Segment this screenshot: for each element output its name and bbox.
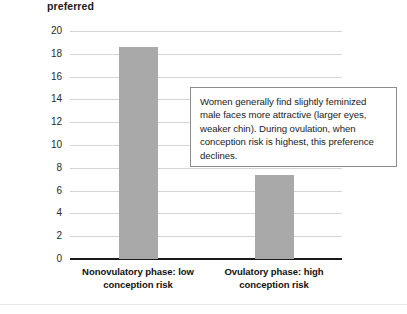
gridline: [70, 236, 342, 237]
bottom-divider: [0, 304, 407, 305]
x-axis-line: [70, 258, 342, 260]
y-axis-tick-label: 2: [40, 231, 62, 241]
gridline: [70, 168, 342, 169]
y-axis-tick-label: 6: [40, 186, 62, 196]
gridline: [70, 213, 342, 214]
y-axis-tick-label: 0: [40, 254, 62, 264]
y-axis-tick-label: 8: [40, 163, 62, 173]
gridline: [70, 191, 342, 192]
bar-chart-figure: preferred 20181614121086420 Nonovulatory…: [0, 0, 407, 314]
gridline: [70, 31, 342, 32]
x-axis-category-label-line: Nonovulatory phase: low: [63, 265, 213, 278]
y-axis-tick-label: 20: [40, 26, 62, 36]
x-axis-category-label: Nonovulatory phase: lowconception risk: [63, 265, 213, 291]
x-axis-category-label: Ovulatory phase: highconception risk: [199, 265, 349, 291]
y-axis-tick-label: 4: [40, 208, 62, 218]
x-axis-category-label-line: conception risk: [199, 278, 349, 291]
y-axis-tick-label: 12: [40, 117, 62, 127]
annotation-text: Women generally find slightly feminized …: [200, 95, 387, 162]
x-axis-category-label-line: Ovulatory phase: high: [199, 265, 349, 278]
chart-title: preferred: [47, 0, 94, 12]
bar: [119, 47, 158, 259]
annotation-callout-box: Women generally find slightly feminized …: [190, 87, 397, 167]
y-axis-tick-label: 16: [40, 72, 62, 82]
x-axis-category-label-line: conception risk: [63, 278, 213, 291]
y-axis-tick-label: 14: [40, 94, 62, 104]
y-axis-tick-label: 10: [40, 140, 62, 150]
gridline: [70, 54, 342, 55]
gridline: [70, 77, 342, 78]
bar: [255, 175, 294, 259]
y-axis-tick-label: 18: [40, 49, 62, 59]
